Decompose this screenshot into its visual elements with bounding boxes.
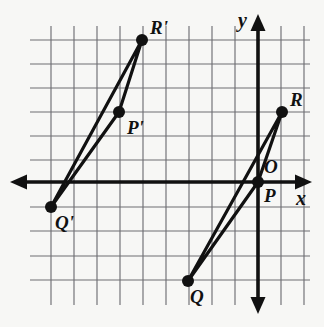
x-axis-arrow-left bbox=[10, 175, 27, 190]
vertex-dot-R bbox=[276, 106, 288, 118]
point-label-P: P bbox=[264, 186, 276, 205]
coordinate-plane-figure: PQRP'Q'R' x y O bbox=[0, 0, 324, 327]
y-axis-label: y bbox=[238, 10, 247, 30]
point-label-Q-prime: Q' bbox=[55, 213, 74, 232]
vertex-dot-R-prime bbox=[136, 34, 148, 46]
point-label-R-prime: R' bbox=[150, 18, 168, 37]
point-label-Q: Q bbox=[190, 287, 204, 306]
x-axis-label: x bbox=[296, 188, 306, 208]
point-label-P-prime: P' bbox=[127, 118, 144, 137]
point-label-R: R bbox=[290, 90, 303, 109]
y-axis-arrow-down bbox=[251, 297, 266, 314]
vertex-dot-P bbox=[252, 176, 264, 188]
y-axis-arrow-up bbox=[251, 14, 266, 31]
vertex-dot-P-prime bbox=[113, 106, 125, 118]
origin-label: O bbox=[264, 157, 278, 176]
